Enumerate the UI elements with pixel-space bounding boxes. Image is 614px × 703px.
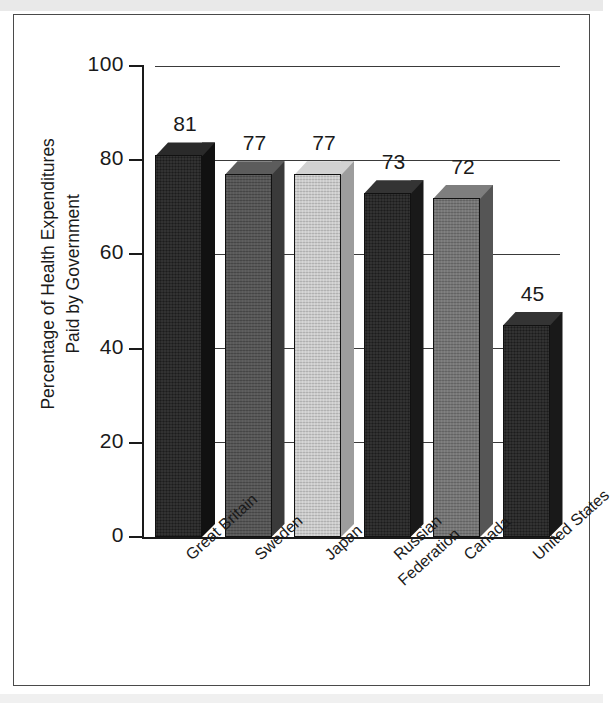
y-axis-tick <box>129 536 143 538</box>
bar-front-face <box>225 174 272 537</box>
bar <box>503 312 563 537</box>
bar-side-face <box>272 161 285 537</box>
bar-front-face <box>503 325 550 537</box>
y-axis-tick-label: 60 <box>14 240 124 264</box>
gridline <box>155 160 560 161</box>
gridline <box>155 442 560 443</box>
bar-front-face <box>433 198 480 537</box>
y-axis-tick <box>129 442 143 444</box>
y-axis-tick-label: 20 <box>14 429 124 453</box>
y-axis-tick-label: 0 <box>14 523 124 547</box>
scan-edge-top <box>0 0 603 11</box>
bar-side-face <box>341 161 354 537</box>
bar-front-face <box>364 193 411 537</box>
bar-value-label: 73 <box>359 150 429 174</box>
bar-value-label: 72 <box>428 155 498 179</box>
y-axis-tick-label: 40 <box>14 335 124 359</box>
bar-side-face <box>550 312 563 537</box>
y-axis-tick-label: 80 <box>14 146 124 170</box>
bar <box>294 161 354 537</box>
gridline <box>155 254 560 255</box>
bar-side-face <box>202 142 215 537</box>
y-axis-tick <box>129 159 143 161</box>
y-axis-tick <box>129 253 143 255</box>
y-axis-line <box>142 65 144 539</box>
bar-value-label: 81 <box>150 112 220 136</box>
bar-value-label: 77 <box>220 131 290 155</box>
bar-front-face <box>294 174 341 537</box>
bar-value-label: 45 <box>498 282 568 306</box>
y-axis-tick <box>129 65 143 67</box>
chart-frame: Percentage of Health Expenditures Paid b… <box>13 14 590 686</box>
bar <box>225 161 285 537</box>
bar <box>364 180 424 537</box>
y-axis-tick <box>129 348 143 350</box>
bar-side-face <box>411 180 424 537</box>
y-axis-tick-label: 100 <box>14 52 124 76</box>
bar-side-face <box>480 185 493 537</box>
gridline <box>155 348 560 349</box>
plot-area: Percentage of Health Expenditures Paid b… <box>14 15 589 685</box>
bar <box>433 185 493 537</box>
gridline <box>155 66 560 67</box>
bar-front-face <box>155 155 202 537</box>
scan-edge-bottom <box>0 694 603 703</box>
bar-value-label: 77 <box>289 131 359 155</box>
bar <box>155 142 215 537</box>
